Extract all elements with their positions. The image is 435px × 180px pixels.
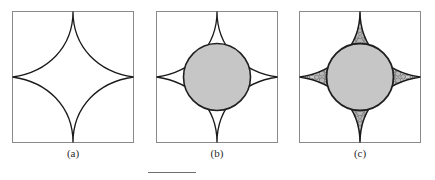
panel-a — [12, 11, 134, 143]
panel-b — [156, 11, 278, 143]
panel-a-caption: (a) — [12, 146, 134, 160]
panel-b-diagram — [156, 11, 278, 143]
panel-c-diagram — [299, 11, 421, 143]
panel-b-inscribed-circle — [184, 44, 251, 111]
panel-a-diagram — [12, 11, 134, 143]
panel-c-inscribed-circle — [327, 44, 394, 111]
footer-rule — [148, 172, 196, 173]
panel-a-frame — [13, 12, 134, 143]
panel-c — [299, 11, 421, 143]
panel-c-caption: (c) — [299, 146, 421, 160]
panel-b-caption: (b) — [156, 146, 278, 160]
figure-root: (a) (b) (c) — [0, 0, 435, 180]
